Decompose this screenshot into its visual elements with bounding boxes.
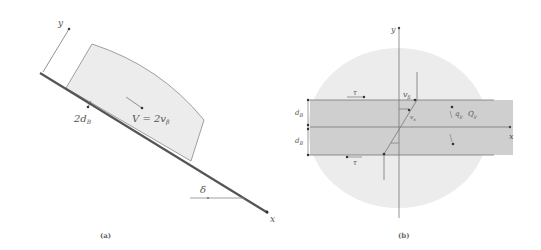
tau-top-label: τ [353,89,357,97]
d-top-label: dB [295,109,303,118]
y-axis-a [43,29,69,72]
axis-x-label-b: x [509,132,514,141]
panel-b [307,27,513,218]
axis-x-label-a: x [270,214,275,224]
axis-y-label-b: y [390,25,396,34]
angle-delta-label: δ [200,184,206,195]
axis-y-label-a: y [57,18,64,28]
tau-bottom-label: τ [353,159,357,167]
caption-b: (b) [398,231,410,240]
d-bottom-label: dB [295,137,303,146]
caption-a: (a) [100,231,111,240]
thickness-label: 2dB [73,113,92,125]
